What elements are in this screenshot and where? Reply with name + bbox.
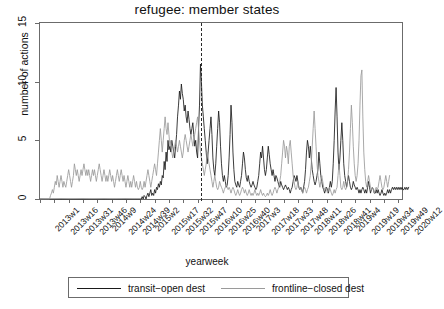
x-tick-mark-2017w48 — [284, 200, 285, 203]
x-tick-mark-2014w24 — [112, 200, 113, 203]
x-tick-mark-2015w32 — [169, 200, 170, 203]
x-tick-mark-2015w17 — [155, 200, 156, 203]
x-tick-mark-2014w9 — [97, 200, 98, 203]
x-tick-mark-2017w33 — [269, 200, 270, 203]
legend-swatch-transit-open-dest — [77, 288, 121, 289]
x-tick-mark-2015w2 — [140, 200, 141, 203]
annotation-vline-dashed — [201, 23, 202, 201]
x-tick-mark-2013w31 — [69, 200, 70, 203]
x-tick-mark-2017w18 — [255, 200, 256, 203]
x-tick-mark-2019w49 — [384, 200, 385, 203]
x-tick-mark-2014w39 — [126, 200, 127, 203]
x-tick-mark-2018w11 — [298, 200, 299, 203]
legend-label-frontline-closed-dest: frontline−closed dest — [272, 283, 364, 294]
x-tick-mark-2013w46 — [83, 200, 84, 203]
series-lines — [40, 23, 402, 199]
series-line-transit-open-dest — [40, 64, 409, 199]
x-tick-mark-2019w19 — [355, 200, 356, 203]
x-tick-mark-2020w12 — [398, 200, 399, 203]
x-tick-mark-2019w4 — [341, 200, 342, 203]
legend-entry-frontline-closed-dest: frontline−closed dest — [221, 278, 364, 299]
chart-title: refugee: member states — [0, 2, 414, 17]
chart-legend: transit−open dest frontline−closed dest — [68, 277, 349, 298]
x-tick-mark-2016w10 — [198, 200, 199, 203]
legend-entry-transit-open-dest: transit−open dest — [77, 278, 205, 299]
legend-swatch-frontline-closed-dest — [221, 288, 265, 289]
x-tick-mark-2016w25 — [212, 200, 213, 203]
x-tick-mark-2013w1 — [40, 200, 41, 203]
y-tick-label-0: 0 — [17, 189, 28, 207]
x-tick-mark-2015w47 — [183, 200, 184, 203]
y-tick-label-5: 5 — [17, 130, 28, 148]
y-tick-label-10: 10 — [17, 71, 28, 89]
legend-label-transit-open-dest: transit−open dest — [128, 283, 205, 294]
x-tick-mark-2018w41 — [327, 200, 328, 203]
x-tick-mark-2016w40 — [226, 200, 227, 203]
x-tick-mark-2018w26 — [312, 200, 313, 203]
x-tick-mark-2017w3 — [241, 200, 242, 203]
plot-area — [39, 22, 403, 200]
y-tick-label-15: 15 — [17, 13, 28, 31]
x-axis-label: yearweek — [0, 256, 414, 267]
x-tick-mark-2019w34 — [370, 200, 371, 203]
x-tick-mark-2013w16 — [54, 200, 55, 203]
